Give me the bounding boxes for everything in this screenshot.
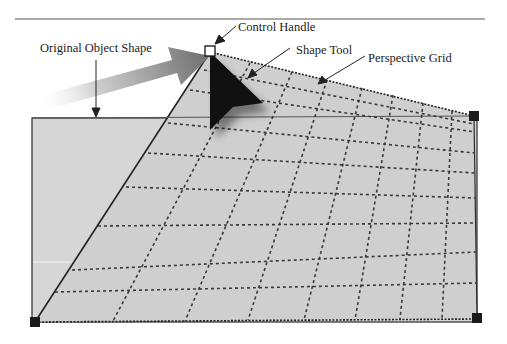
corner-handle-bottom-left[interactable] [30,317,40,327]
corner-handle-bottom-right[interactable] [472,313,482,323]
corner-handle-top-right[interactable] [469,111,479,121]
label-control-handle: Control Handle [238,21,315,34]
label-original-object-shape: Original Object Shape [40,42,152,55]
control-handle[interactable] [205,46,215,56]
label-perspective-grid: Perspective Grid [368,52,452,65]
label-shape-tool: Shape Tool [296,44,352,57]
perspective-diagram: Original Object Shape Control Handle Sha… [0,0,507,344]
